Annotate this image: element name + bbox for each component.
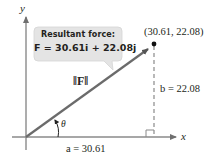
resultant-vector (26, 49, 148, 137)
x-axis-label: x (181, 130, 186, 142)
right-angle-marker (146, 130, 154, 137)
horizontal-component-label: a = 30.61 (66, 143, 105, 154)
magnitude-label: ‖F‖ (73, 74, 88, 89)
vertical-component-label: b = 22.08 (160, 83, 200, 94)
callout-equation: F = 30.61i + 22.08j (34, 42, 122, 53)
point-label: (30.61, 22.08) (144, 26, 204, 37)
callout-title: Resultant force: (34, 30, 122, 39)
y-axis-label: y (20, 2, 25, 14)
angle-label: θ (61, 119, 66, 129)
endpoint-dot (152, 42, 157, 47)
angle-arc-icon (55, 120, 59, 137)
